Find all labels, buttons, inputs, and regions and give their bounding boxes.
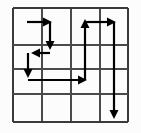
grid-arrow-diagram [0, 0, 141, 133]
arrow-3-left-row2 [31, 49, 50, 58]
arrow-8-down-col4-head-icon [110, 110, 119, 119]
arrow-6-up-col3 [81, 19, 90, 80]
diagram-canvas [0, 0, 141, 133]
arrow-3-left-row2-head-icon [31, 49, 40, 58]
arrow-4-down-col1 [24, 53, 33, 78]
arrow-1-right-top-left [27, 18, 52, 27]
arrow-8-down-col4 [110, 22, 119, 119]
arrow-4-down-col1-head-icon [24, 69, 33, 78]
arrow-6-up-col3-head-icon [81, 19, 90, 28]
arrow-5-right-row3 [28, 76, 87, 85]
grid-lines [13, 8, 128, 122]
